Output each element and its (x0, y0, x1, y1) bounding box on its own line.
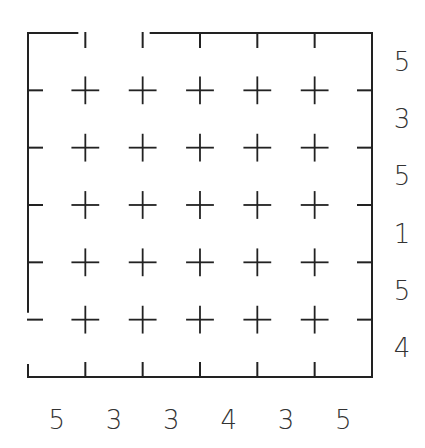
bottom-clue: 5 (48, 405, 65, 435)
puzzle-board: 535154 533435 (0, 0, 425, 448)
bottom-clue: 3 (163, 405, 180, 435)
right-clue: 5 (394, 161, 411, 191)
right-clue: 5 (394, 47, 411, 77)
bottom-clue: 3 (278, 405, 295, 435)
right-clue: 3 (394, 104, 411, 134)
right-clue: 4 (394, 333, 411, 363)
right-clue: 1 (394, 219, 411, 249)
right-clue: 5 (394, 276, 411, 306)
interior-cross-markers (72, 77, 327, 332)
bottom-clue: 4 (220, 405, 237, 435)
bottom-clue: 3 (106, 405, 123, 435)
puzzle-canvas: 535154 533435 (0, 0, 425, 448)
right-clue-column: 535154 (394, 47, 411, 364)
bottom-clue: 5 (335, 405, 352, 435)
bottom-clue-row: 533435 (48, 405, 351, 435)
